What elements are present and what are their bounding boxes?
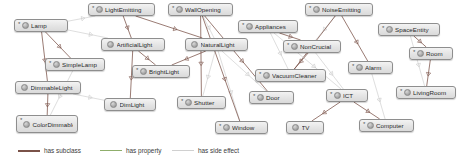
node-alarm[interactable]: *Alarm bbox=[348, 61, 393, 74]
node-nonCrucial[interactable]: *NonCrucial bbox=[283, 40, 341, 53]
edge-arrowhead-icon bbox=[206, 75, 210, 79]
edge-spaceEntity-to-room bbox=[414, 36, 426, 47]
node-abstract-marker: * bbox=[20, 118, 22, 123]
node-tv[interactable]: *TV bbox=[286, 121, 324, 134]
edge-arrowhead-icon bbox=[125, 26, 129, 30]
node-dimLight[interactable]: *DimLight bbox=[104, 98, 156, 111]
node-colorDimmableLight[interactable]: *ColorDimmableLight bbox=[16, 115, 78, 133]
diagram-canvas: *Lamp*LightEmitting*WallOpening*Applianc… bbox=[0, 0, 468, 167]
node-lightEmitting[interactable]: *LightEmitting bbox=[88, 3, 155, 16]
node-abstract-marker: * bbox=[18, 22, 21, 27]
legend-line-swatch bbox=[18, 150, 40, 152]
node-label: DimLight bbox=[120, 101, 152, 108]
edge-arrowhead-icon bbox=[377, 98, 381, 102]
node-label: ColorDimmableLight bbox=[32, 121, 73, 128]
node-wallOpening[interactable]: *WallOpening bbox=[168, 3, 233, 16]
edge-arrowhead-icon bbox=[278, 51, 282, 55]
edge-lamp-to-dimmableLight bbox=[42, 32, 48, 81]
edge-naturalLight-to-shutter bbox=[203, 51, 215, 96]
edge-lamp-to-lightEmitting bbox=[68, 16, 95, 21]
edge-artificialLight-to-brightLight bbox=[138, 51, 155, 65]
node-livingRoom[interactable]: *LivingRoom bbox=[396, 86, 456, 99]
class-bullet-icon bbox=[185, 99, 192, 106]
node-simpleLamp[interactable]: *SimpleLamp bbox=[45, 58, 105, 71]
legend: has subclasshas propertyhas side effect bbox=[0, 143, 468, 167]
class-bullet-icon bbox=[291, 43, 298, 50]
legend-label: has subclass bbox=[44, 147, 81, 154]
legend-label: has property bbox=[126, 147, 162, 154]
node-abstract-marker: * bbox=[242, 23, 245, 28]
edge-arrowhead-icon bbox=[418, 39, 422, 43]
node-lamp[interactable]: *Lamp bbox=[14, 19, 68, 32]
edge-lamp-to-artificialLight bbox=[68, 30, 108, 38]
edge-arrowhead-icon bbox=[57, 44, 61, 48]
node-ict[interactable]: *ICT bbox=[326, 89, 368, 102]
node-abstract-marker: * bbox=[259, 72, 262, 77]
node-abstract-marker: * bbox=[172, 6, 175, 11]
legend-item-has-side-effect: has side effect bbox=[172, 147, 239, 154]
node-label: ICT bbox=[343, 92, 363, 99]
class-bullet-icon bbox=[313, 6, 320, 13]
class-bullet-icon bbox=[110, 101, 117, 108]
legend-line-swatch bbox=[100, 150, 122, 151]
edge-arrowhead-icon bbox=[416, 63, 420, 67]
node-abstract-marker: * bbox=[253, 94, 256, 99]
edge-noiseEmitting-to-nonCrucial bbox=[316, 16, 335, 40]
node-label: NaturalLight bbox=[201, 41, 244, 48]
node-artificialLight[interactable]: *ArtificialLight bbox=[101, 38, 165, 51]
node-shutter[interactable]: *Shutter bbox=[177, 96, 226, 109]
node-label: LightEmitting bbox=[105, 6, 150, 13]
edge-arrowhead-icon bbox=[229, 91, 233, 95]
legend-item-has-property: has property bbox=[100, 147, 162, 154]
node-label: TV bbox=[302, 124, 320, 131]
class-bullet-icon bbox=[257, 94, 264, 101]
node-abstract-marker: * bbox=[49, 61, 52, 66]
edge-spaceEntity-to-livingRoom bbox=[410, 36, 424, 86]
edge-arrowhead-icon bbox=[323, 27, 327, 31]
node-door[interactable]: *Door bbox=[249, 91, 294, 104]
node-room[interactable]: *Room bbox=[409, 47, 453, 60]
node-appliances[interactable]: *Appliances bbox=[238, 20, 298, 33]
class-bullet-icon bbox=[246, 23, 253, 30]
node-label: Window bbox=[232, 124, 263, 131]
legend-label: has side effect bbox=[198, 147, 239, 154]
node-label: Lamp bbox=[31, 22, 63, 29]
node-window[interactable]: *Window bbox=[215, 121, 268, 134]
edge-arrowhead-icon bbox=[426, 72, 430, 76]
node-label: Appliances bbox=[255, 23, 293, 30]
edge-arrowhead-icon bbox=[289, 34, 293, 38]
node-label: WallOpening bbox=[185, 6, 228, 13]
node-label: ArtificialLight bbox=[117, 41, 161, 48]
edge-arrowhead-icon bbox=[58, 94, 62, 98]
node-label: DimmableLight bbox=[31, 84, 77, 91]
node-label: LivingRoom bbox=[413, 89, 451, 96]
edge-lightEmitting-to-artificialLight bbox=[123, 16, 131, 38]
edge-dimmableLight-to-colorDimmableLight bbox=[47, 94, 48, 115]
node-dimmableLight[interactable]: *DimmableLight bbox=[15, 81, 81, 94]
node-brightLight[interactable]: *BrightLight bbox=[132, 65, 190, 78]
node-label: BrightLight bbox=[149, 68, 185, 75]
node-computer[interactable]: *Computer bbox=[359, 119, 414, 132]
node-vacuumCleaner[interactable]: *VacuumCleaner bbox=[255, 69, 326, 82]
node-naturalLight[interactable]: *NaturalLight bbox=[185, 38, 248, 51]
edge-arrowhead-icon bbox=[145, 56, 149, 60]
node-abstract-marker: * bbox=[352, 64, 355, 69]
node-noiseEmitting[interactable]: *NoiseEmitting bbox=[305, 3, 373, 16]
edge-arrowhead-icon bbox=[199, 62, 203, 65]
edge-arrowhead-icon bbox=[366, 109, 370, 113]
edge-dimmableLight-to-dimLight bbox=[73, 94, 104, 100]
legend-item-has-subclass: has subclass bbox=[18, 147, 81, 154]
edge-arrowhead-icon bbox=[354, 40, 358, 44]
node-label: SimpleLamp bbox=[62, 61, 100, 68]
edge-lightEmitting-to-naturalLight bbox=[136, 16, 203, 38]
node-spaceEntity[interactable]: *SpaceEntity bbox=[378, 23, 440, 36]
class-bullet-icon bbox=[21, 84, 28, 91]
edge-appliances-to-nonCrucial bbox=[279, 33, 300, 40]
edge-noiseEmitting-to-alarm bbox=[342, 16, 368, 61]
edge-arrowhead-icon bbox=[312, 64, 316, 68]
edge-arrowhead-icon bbox=[206, 26, 210, 30]
class-bullet-icon bbox=[356, 64, 363, 71]
node-label: NonCrucial bbox=[300, 43, 336, 50]
class-bullet-icon bbox=[140, 68, 147, 75]
node-abstract-marker: * bbox=[92, 6, 95, 11]
